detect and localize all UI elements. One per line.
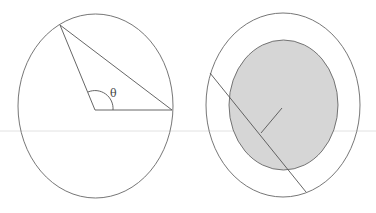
left-figure: θ [18,14,173,198]
theta-label: θ [110,87,117,100]
right-figure [206,13,360,197]
left-circle [18,14,173,198]
diagram-canvas: θ [0,0,376,213]
shaded-inner-circle [229,40,338,170]
